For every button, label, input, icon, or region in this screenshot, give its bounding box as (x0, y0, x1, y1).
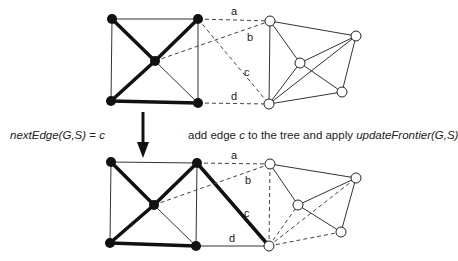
top-edge-label-b: b (247, 31, 253, 43)
graph-node (264, 99, 274, 109)
newly-added-node (264, 241, 274, 251)
right-caption-args: (G,S) (431, 129, 458, 141)
left-caption-func: nextEdge (10, 129, 59, 141)
bottom-graph: a b c d (105, 149, 361, 251)
tree-node (150, 56, 160, 66)
tree-node (106, 96, 116, 106)
tree-node (193, 98, 203, 108)
right-caption-func: updateFrontier (356, 129, 431, 141)
right-caption: add edge c to the tree and apply updateF… (188, 129, 458, 141)
graph-node (351, 31, 361, 41)
top-other-nodes (264, 16, 361, 109)
top-graph: a b c d (106, 5, 361, 109)
tree-node (106, 157, 116, 167)
bottom-edge-label-a: a (231, 149, 238, 161)
top-edge-label-c: c (244, 66, 250, 78)
left-caption-value: c (99, 129, 105, 141)
tree-node (107, 14, 117, 24)
bottom-edge-label-c: c (244, 207, 250, 219)
top-edge-label-d: d (231, 90, 237, 102)
tree-node (149, 200, 159, 210)
left-caption-eq: = (86, 129, 99, 141)
top-edge-label-a: a (231, 5, 238, 17)
graph-node (337, 87, 347, 97)
graph-node (293, 200, 303, 210)
bottom-right-edges (270, 164, 356, 232)
bottom-edge-label-b: b (245, 174, 251, 186)
left-caption: nextEdge(G,S) = c (10, 129, 105, 141)
graph-node (295, 58, 305, 68)
graph-node (351, 173, 361, 183)
left-caption-args: (G,S) (59, 129, 86, 141)
right-caption-part1: add edge (188, 129, 239, 141)
tree-node (193, 14, 203, 24)
down-arrow-icon (137, 112, 149, 158)
graph-node (336, 227, 346, 237)
tree-node (191, 241, 201, 251)
graph-node (265, 159, 275, 169)
tree-node (105, 238, 115, 248)
bottom-edge-label-d: d (229, 232, 235, 244)
tree-node (192, 158, 202, 168)
graph-node (265, 16, 275, 26)
right-caption-part2: to the tree and apply (245, 129, 356, 141)
